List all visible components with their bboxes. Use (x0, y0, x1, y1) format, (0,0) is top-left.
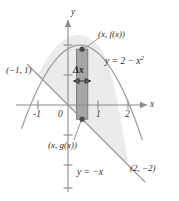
upper-point-dot (80, 47, 85, 52)
lower-point-dot (80, 117, 85, 122)
x-axis-arrowhead (140, 102, 147, 108)
line-equation-label: y = −x (77, 168, 103, 178)
representative-rectangle (76, 49, 87, 119)
lower-point-label: (x, g(x)) (48, 141, 77, 150)
x-tick-label-1: 1 (96, 110, 101, 120)
x-tick-label-0: 0 (58, 110, 63, 120)
lower-point-leader (74, 121, 81, 140)
x-axis-label: x (150, 100, 154, 110)
y-axis-label: y (71, 8, 75, 18)
figure-container: x y -1 0 1 2 (x, f(x)) (x, g(x)) (−1, 1)… (0, 0, 179, 201)
parabola-equation-text: y = 2 − x (105, 56, 141, 66)
left-intersection-label: (−1, 1) (6, 66, 32, 75)
delta-x-label: Δx (73, 66, 84, 76)
parabola-equation-label: y = 2 − x2 (105, 55, 144, 67)
parabola-equation-exponent: 2 (141, 54, 145, 62)
upper-point-label: (x, f(x)) (98, 30, 125, 39)
x-tick-label-2: 2 (125, 110, 130, 120)
right-intersection-label: (2, −2) (130, 164, 156, 173)
x-tick-label-neg1: -1 (33, 110, 41, 120)
y-axis-arrowhead (65, 20, 71, 27)
